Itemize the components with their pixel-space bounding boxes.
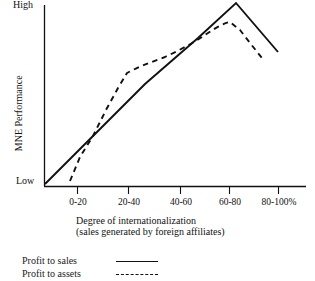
y-axis-high-label: High [13, 0, 33, 11]
x-tick-label-20-40: 20-40 [102, 197, 156, 207]
x-axis-title-line2: (sales generated by foreign affiliates) [76, 227, 225, 238]
x-tick-label-80-100: 80-100% [252, 197, 306, 207]
legend-swatch-dashed-line [116, 274, 158, 275]
x-axis-title: Degree of internationalization (sales ge… [76, 216, 225, 237]
legend-swatch-solid-line [116, 261, 158, 262]
x-axis-title-line1: Degree of internationalization [76, 216, 225, 227]
x-tick-label-40-60: 40-60 [154, 197, 208, 207]
series-profit-to-assets [70, 22, 262, 181]
y-axis-title: MNE Performance [14, 57, 25, 169]
x-axis-ticks [78, 186, 279, 194]
legend-label-profit-to-sales: Profit to sales [22, 255, 77, 266]
y-axis-low-label: Low [16, 176, 34, 187]
x-tick-label-0-20: 0-20 [51, 197, 105, 207]
legend-label-profit-to-assets: Profit to assets [22, 268, 81, 279]
x-tick-label-60-80: 60-80 [203, 197, 257, 207]
series-profit-to-sales [45, 3, 278, 184]
